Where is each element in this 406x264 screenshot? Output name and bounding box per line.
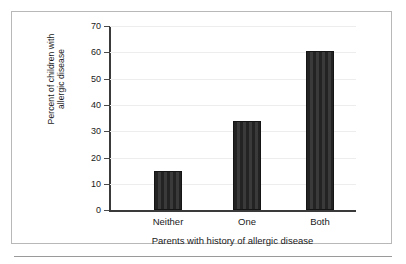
plot-area: 70 60 50 40 30 20 10 0 (109, 26, 355, 210)
y-tick-label-0: 0 (96, 205, 101, 215)
y-tick-40 (104, 105, 109, 106)
y-tick-label-40: 40 (91, 100, 101, 110)
figure-page: Percent of children with allergic diseas… (0, 0, 406, 264)
bar-one[interactable] (233, 121, 261, 210)
y-tick-label-10: 10 (91, 179, 101, 189)
x-tick-label-both: Both (310, 216, 330, 227)
y-tick-60 (104, 52, 109, 53)
y-tick-label-50: 50 (91, 74, 101, 84)
y-tick-30 (104, 131, 109, 132)
x-axis-title: Parents with history of allergic disease (109, 235, 356, 246)
bar-neither[interactable] (154, 171, 182, 210)
y-tick-label-30: 30 (91, 126, 101, 136)
y-axis-title-line-1: Percent of children with (46, 34, 57, 125)
x-axis-line (109, 210, 356, 212)
x-tick-label-neither: Neither (153, 216, 184, 227)
bars-layer (110, 26, 356, 210)
y-tick-label-60: 60 (91, 47, 101, 57)
bar-both[interactable] (306, 51, 334, 210)
y-axis-title: Percent of children with allergic diseas… (41, 7, 71, 151)
x-tick-label-one: One (238, 216, 256, 227)
figure-frame: Percent of children with allergic diseas… (11, 11, 392, 244)
y-tick-50 (104, 79, 109, 80)
y-tick-70 (104, 26, 109, 27)
y-tick-label-20: 20 (91, 153, 101, 163)
y-tick-label-70: 70 (91, 21, 101, 31)
y-tick-0 (104, 210, 109, 211)
y-tick-20 (104, 158, 109, 159)
y-axis-title-line-2: allergic disease (56, 49, 67, 109)
footer-rule (14, 256, 392, 257)
y-tick-10 (104, 184, 109, 185)
